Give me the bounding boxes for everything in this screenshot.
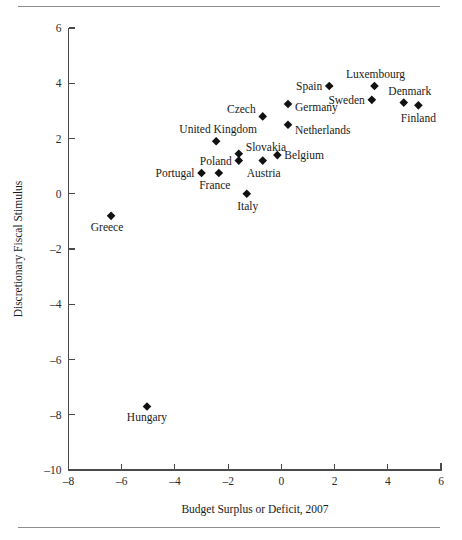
x-tick-label: 4: [385, 475, 391, 487]
data-point-marker[interactable]: [258, 112, 267, 121]
x-tick-label: 6: [438, 475, 444, 487]
y-tick-label: –8: [49, 409, 62, 421]
data-point-label: Slovakia: [246, 141, 286, 153]
data-point-marker[interactable]: [258, 156, 267, 165]
data-point-marker[interactable]: [197, 169, 206, 178]
data-point-label: Netherlands: [295, 124, 351, 136]
data-point-labels-group: GreeceHungaryPortugalFranceUnited Kingdo…: [91, 68, 436, 424]
y-tick-label: 2: [56, 133, 62, 145]
x-tick-label: 0: [278, 475, 284, 487]
data-point-label: Sweden: [328, 94, 365, 106]
figure-container: –8–6–4–20246 –10–8–6–4–20246 GreeceHunga…: [0, 0, 462, 540]
data-point-label: Czech: [227, 103, 256, 115]
data-point-label: Hungary: [127, 411, 167, 424]
y-tick-label: 6: [56, 22, 62, 34]
y-tick-label: 0: [56, 188, 62, 200]
data-point-marker[interactable]: [399, 98, 408, 107]
data-point-marker[interactable]: [107, 212, 116, 221]
x-axis-title: Budget Surplus or Deficit, 2007: [181, 503, 328, 516]
y-tick-label: –6: [49, 354, 62, 366]
scatter-plot: –8–6–4–20246 –10–8–6–4–20246 GreeceHunga…: [0, 0, 462, 540]
data-point-label: Denmark: [388, 85, 431, 97]
y-tick-label: –4: [49, 298, 62, 310]
x-tick-label: –4: [168, 475, 181, 487]
data-point-marker[interactable]: [212, 137, 221, 146]
data-point-label: United Kingdom: [179, 123, 257, 136]
data-point-marker[interactable]: [325, 82, 334, 91]
y-tick-labels: –10–8–6–4–20246: [43, 22, 62, 476]
x-tick-label: –8: [62, 475, 75, 487]
data-point-label: Spain: [296, 80, 322, 93]
data-point-marker[interactable]: [143, 402, 152, 411]
data-point-marker[interactable]: [284, 120, 293, 129]
y-axis-title: Discretionary Fiscal Stimulus: [12, 180, 25, 317]
data-point-marker[interactable]: [234, 149, 243, 158]
y-tick-label: –10: [43, 464, 62, 476]
data-point-label: Finland: [401, 112, 436, 124]
data-point-label: Poland: [200, 155, 232, 167]
data-point-label: Greece: [91, 221, 124, 233]
y-tick-label: –2: [49, 243, 62, 255]
data-point-label: Luxembourg: [346, 68, 405, 81]
data-point-marker[interactable]: [414, 101, 423, 110]
x-tick-label: –6: [115, 475, 128, 487]
data-point-label: Italy: [237, 200, 258, 213]
axes-group: [69, 28, 442, 470]
data-point-marker[interactable]: [370, 82, 379, 91]
data-point-label: Austria: [247, 167, 281, 179]
y-tick-label: 4: [56, 77, 62, 89]
data-point-marker[interactable]: [368, 96, 377, 105]
data-point-marker[interactable]: [242, 189, 251, 198]
data-point-label: Portugal: [156, 167, 195, 180]
x-tick-label: –2: [221, 475, 234, 487]
data-point-marker[interactable]: [284, 100, 293, 109]
data-point-marker[interactable]: [215, 169, 224, 178]
data-point-label: Belgium: [284, 149, 324, 162]
data-points-group: [107, 82, 423, 411]
x-tick-labels: –8–6–4–20246: [62, 475, 444, 487]
x-tick-label: 2: [332, 475, 338, 487]
data-point-label: France: [199, 179, 230, 191]
